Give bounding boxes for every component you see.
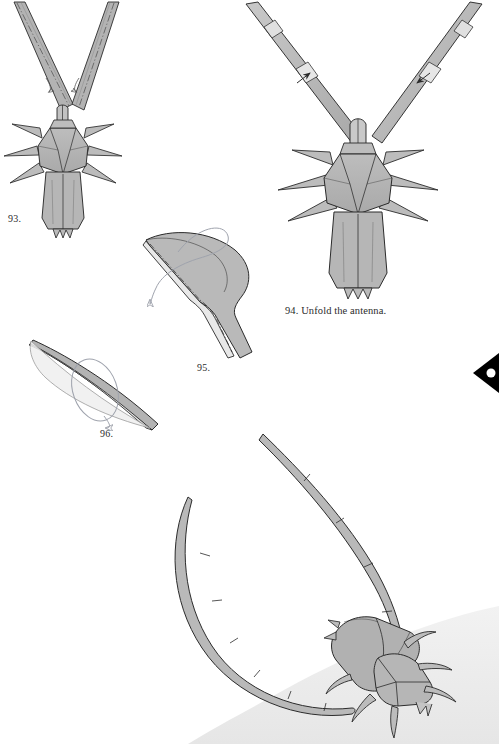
finished-model-artwork — [175, 434, 499, 744]
fig93-head — [57, 105, 68, 124]
finished-elytra — [332, 617, 420, 691]
fig94-head — [350, 119, 366, 147]
fig94-tail — [344, 288, 372, 299]
finished-legs — [326, 631, 456, 738]
figure-label-96: 96. — [100, 428, 113, 439]
ground-shading — [188, 606, 499, 744]
fig93-legs — [4, 124, 122, 183]
fig93-thorax — [38, 128, 88, 174]
fig96-rotation-arrow — [63, 352, 126, 428]
finished-right-antenna — [259, 434, 404, 695]
fig96-back — [29, 344, 152, 430]
figure-caption-94: 94. Unfold the antenna. — [285, 305, 386, 316]
fig96-flap — [30, 341, 150, 428]
page-edge-arrow-icon — [469, 353, 499, 393]
fig95-rotation-arrow — [150, 228, 228, 304]
figure-94-artwork — [246, 2, 482, 299]
figure-95-artwork — [143, 228, 252, 358]
fig94-thorax — [324, 154, 392, 214]
finished-left-antenna — [175, 497, 355, 716]
figure-label-95: 95. — [197, 362, 210, 373]
finished-rear-spikes — [324, 620, 340, 640]
fig94-right-antenna — [372, 2, 482, 143]
instruction-page: 93. 94. Unfold the antenna. 95. 96. — [0, 0, 499, 744]
fig95-back-flap — [143, 241, 234, 358]
fig93-abdomen — [42, 172, 84, 229]
fig93-unfold-arrows — [46, 78, 79, 92]
fig93-right-antenna — [72, 2, 119, 110]
fig95-main-shape — [146, 233, 252, 358]
figure-96-artwork — [29, 340, 158, 430]
figure-93-artwork — [4, 2, 122, 238]
finished-mandibles — [416, 702, 432, 716]
finished-head — [374, 654, 433, 706]
fig94-unfold-arrows — [297, 73, 430, 83]
fig94-legs — [278, 150, 438, 221]
figure-label-93: 93. — [8, 213, 21, 224]
origami-diagram-artwork — [0, 0, 499, 744]
fig94-abdomen — [329, 212, 387, 288]
fig93-left-antenna — [14, 2, 73, 110]
fig96-strip — [30, 340, 158, 430]
fig93-tail — [53, 229, 73, 238]
fig94-left-antenna — [246, 2, 362, 143]
